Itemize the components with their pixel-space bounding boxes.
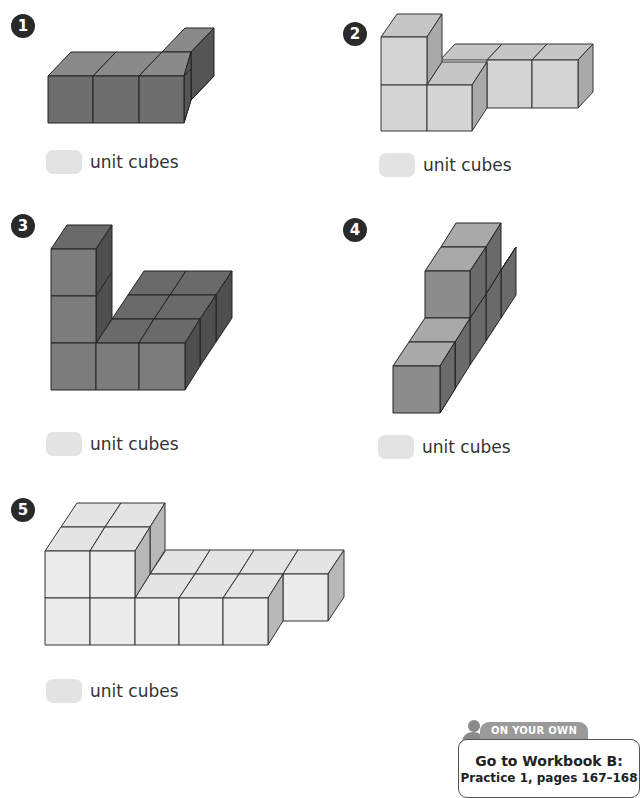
answer-box-5[interactable]: [46, 679, 82, 703]
answer-box-4[interactable]: [378, 435, 414, 459]
answer-label-1: unit cubes: [90, 152, 179, 172]
answer-box-3[interactable]: [46, 432, 82, 456]
exercise-number-5: 5: [11, 498, 35, 522]
on-your-own-callout: ON YOUR OWN Go to Workbook B: Practice 1…: [458, 722, 633, 798]
answer-label-5: unit cubes: [90, 681, 179, 701]
answer-box-1[interactable]: [46, 150, 82, 174]
answer-box-2[interactable]: [379, 153, 415, 177]
cube-figure-1: [40, 20, 230, 130]
workbook-line-2: Practice 1, pages 167–168: [460, 771, 637, 785]
answer-label-4: unit cubes: [422, 437, 511, 457]
answer-row-3: unit cubes: [46, 432, 179, 456]
workbook-line-1: Go to Workbook B:: [475, 753, 623, 769]
cube-figure-5: [40, 498, 350, 653]
answer-row-1: unit cubes: [46, 150, 179, 174]
exercise-number-1: 1: [11, 14, 35, 38]
workbook-reference: Go to Workbook B: Practice 1, pages 167–…: [458, 739, 640, 798]
exercise-number-4: 4: [343, 218, 367, 242]
answer-label-3: unit cubes: [90, 434, 179, 454]
exercise-number-3: 3: [11, 214, 35, 238]
cube-figure-4: [388, 218, 523, 418]
answer-label-2: unit cubes: [423, 155, 512, 175]
cube-figure-2: [375, 8, 605, 138]
answer-row-2: unit cubes: [379, 153, 512, 177]
person-icon: [468, 720, 480, 732]
on-your-own-tab: ON YOUR OWN: [480, 722, 588, 739]
answer-row-5: unit cubes: [46, 679, 179, 703]
cube-figure-3: [45, 220, 240, 395]
answer-row-4: unit cubes: [378, 435, 511, 459]
exercise-number-2: 2: [343, 22, 367, 46]
